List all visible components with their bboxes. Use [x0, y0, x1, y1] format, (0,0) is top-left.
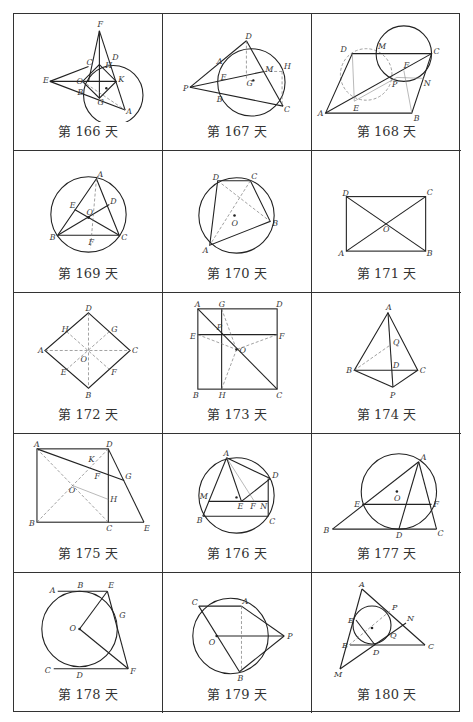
svg-text:B: B	[85, 391, 92, 400]
figure-171-diagram: DCO AB	[312, 151, 461, 264]
figure-cell-175: ADK FGO HBC E 第 175 天	[14, 434, 163, 573]
svg-text:B: B	[77, 581, 84, 590]
svg-text:D: D	[109, 197, 117, 206]
svg-text:D: D	[271, 471, 279, 480]
svg-text:O: O	[81, 355, 88, 364]
svg-text:A: A	[223, 449, 230, 458]
svg-text:K: K	[117, 75, 125, 84]
svg-text:E: E	[42, 76, 49, 85]
svg-text:B: B	[236, 674, 243, 683]
svg-text:F: F	[87, 238, 94, 247]
svg-text:Q: Q	[390, 631, 397, 640]
svg-text:A: A	[49, 586, 56, 595]
svg-text:A: A	[317, 109, 324, 118]
figure-167-diagram: DAE GMH PBC	[163, 14, 311, 122]
svg-text:E: E	[60, 368, 67, 377]
svg-text:E: E	[220, 73, 227, 82]
svg-text:K: K	[87, 455, 95, 464]
svg-text:C: C	[284, 105, 290, 114]
figure-cell-178: ABE GOC DF 第 178 天	[14, 573, 163, 713]
svg-text:D: D	[372, 648, 380, 657]
svg-text:B: B	[271, 219, 278, 228]
svg-text:E: E	[352, 104, 359, 113]
figure-cell-179: CAO PB 第 179 天	[163, 573, 312, 713]
svg-text:F: F	[278, 332, 285, 341]
figure-180-diagram: APE NQB DCM	[312, 573, 461, 685]
svg-text:N: N	[406, 614, 415, 623]
svg-text:D: D	[244, 32, 252, 41]
svg-text:C: C	[132, 346, 138, 355]
svg-text:F: F	[403, 61, 410, 70]
svg-text:F: F	[249, 502, 256, 511]
svg-text:N: N	[259, 502, 268, 511]
figure-caption: 第 166 天	[14, 121, 162, 140]
svg-text:A: A	[96, 170, 103, 179]
svg-text:C: C	[427, 188, 433, 197]
svg-text:O: O	[232, 219, 239, 228]
figure-178-diagram: ABE GOC DF	[14, 573, 162, 685]
svg-text:H: H	[61, 325, 70, 334]
svg-text:O: O	[69, 486, 76, 495]
figure-caption: 第 167 天	[163, 121, 311, 140]
svg-text:G: G	[246, 79, 252, 88]
svg-text:N: N	[423, 79, 432, 88]
svg-text:C: C	[276, 391, 282, 400]
figure-caption: 第 174 天	[312, 404, 461, 423]
svg-text:D: D	[111, 53, 119, 62]
figure-170-diagram: DCO BA	[163, 151, 311, 264]
svg-text:A: A	[33, 440, 40, 449]
svg-text:B: B	[77, 88, 84, 97]
svg-text:E: E	[236, 502, 243, 511]
svg-text:D: D	[275, 300, 283, 309]
svg-text:D: D	[212, 173, 220, 182]
figure-179-diagram: CAO PB	[163, 573, 311, 685]
svg-text:B: B	[192, 391, 199, 400]
svg-text:C: C	[121, 233, 127, 242]
figure-166-diagram: FCD HEO KBG A	[14, 14, 162, 122]
svg-text:F: F	[110, 368, 117, 377]
svg-text:C: C	[106, 524, 112, 533]
figure-cell-171: DCO AB 第 171 天	[312, 151, 461, 293]
svg-text:M: M	[333, 670, 343, 679]
svg-text:C: C	[251, 172, 257, 181]
svg-text:P: P	[391, 603, 398, 612]
figure-grid: FCD HEO KBG A 第 166 天 DAE GMH PBC 第 167 …	[13, 13, 460, 712]
figure-cell-174: AQB DCP 第 174 天	[312, 293, 461, 434]
figure-175-diagram: ADK FGO HBC E	[14, 434, 162, 544]
svg-text:P: P	[182, 84, 189, 93]
figure-caption: 第 171 天	[312, 263, 461, 282]
svg-text:D: D	[76, 671, 84, 680]
figure-cell-167: DAE GMH PBC 第 167 天	[163, 14, 312, 151]
svg-text:A: A	[241, 597, 248, 606]
svg-text:C: C	[428, 642, 434, 651]
figure-caption: 第 173 天	[163, 404, 311, 423]
svg-text:G: G	[219, 300, 225, 309]
svg-text:B: B	[341, 641, 348, 650]
svg-text:C: C	[438, 529, 444, 538]
svg-text:C: C	[434, 47, 440, 56]
svg-text:H: H	[109, 495, 118, 504]
svg-text:G: G	[119, 611, 125, 620]
figure-caption: 第 170 天	[163, 263, 311, 282]
figure-cell-166: FCD HEO KBG A 第 166 天	[14, 14, 163, 151]
svg-text:H: H	[283, 62, 292, 71]
figure-cell-180: APE NQB DCM 第 180 天	[312, 573, 461, 713]
svg-text:B: B	[216, 95, 223, 104]
figure-cell-170: DCO BA 第 170 天	[163, 151, 312, 293]
svg-text:A: A	[194, 300, 201, 309]
svg-text:A: A	[385, 303, 392, 312]
svg-text:D: D	[392, 361, 400, 370]
svg-text:A: A	[420, 453, 427, 462]
figure-caption: 第 172 天	[14, 404, 162, 423]
svg-text:P: P	[391, 80, 398, 89]
svg-text:P: P	[216, 323, 223, 332]
svg-text:F: F	[96, 20, 103, 29]
figure-cell-168: DMC FPN EAB 第 168 天	[312, 14, 461, 151]
figure-caption: 第 169 天	[14, 263, 162, 282]
figure-caption: 第 178 天	[14, 684, 162, 703]
svg-text:A: A	[125, 107, 132, 116]
svg-text:A: A	[216, 57, 223, 66]
figure-168-diagram: DMC FPN EAB	[312, 14, 461, 122]
svg-text:O: O	[87, 208, 94, 217]
figure-cell-169: ADE OBF C 第 169 天	[14, 151, 163, 293]
